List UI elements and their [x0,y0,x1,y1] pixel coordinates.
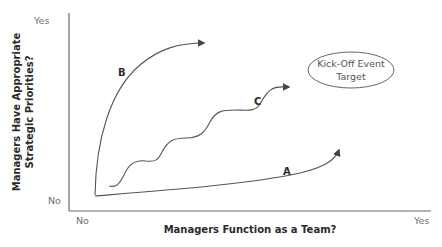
curve-a-label: A [283,166,291,177]
strategy-team-diagram: Yes No No Yes Managers Have Appropriate … [0,0,442,247]
x-axis-left-label: No [76,215,89,226]
y-axis-title-line2: Strategic Priorities? [24,55,35,168]
curve-b-label: B [118,67,126,78]
target-text-line2: Target [335,71,366,82]
target-text-line1: Kick-Off Event [317,58,385,69]
curve-c [109,87,289,187]
x-axis-right-label: Yes [413,215,429,226]
y-axis-bottom-label: No [48,195,61,206]
curve-c-label: C [254,96,261,107]
x-axis-title: Managers Function as a Team? [164,224,337,235]
curve-b [95,43,204,195]
y-axis-top-label: Yes [33,15,49,26]
curve-a [95,150,339,196]
y-axis-title-line1: Managers Have Appropriate [11,33,22,192]
